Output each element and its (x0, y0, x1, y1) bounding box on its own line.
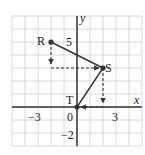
y-axis-label: y (79, 11, 86, 25)
coordinate-plane: y x R S T −3 0 3 5 −2 (0, 0, 145, 155)
x-tick-0: 0 (67, 110, 73, 124)
point-label-s: S (105, 61, 112, 75)
point-r (48, 39, 53, 44)
x-tick-3: 3 (112, 110, 118, 124)
point-label-t: T (66, 93, 74, 107)
x-tick-neg3: −3 (28, 110, 41, 124)
point-label-r: R (37, 34, 45, 48)
point-t (74, 104, 79, 109)
x-axis-label: x (133, 93, 140, 107)
y-tick-5: 5 (66, 35, 72, 49)
y-tick-neg2: −2 (61, 128, 74, 142)
